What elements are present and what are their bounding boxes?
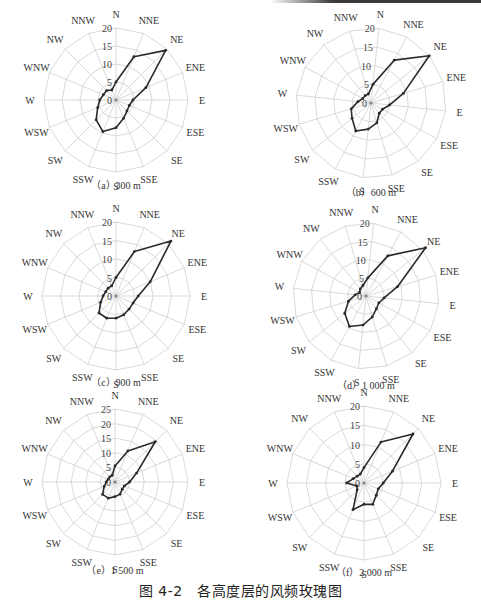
data-point [345,482,348,485]
figure-caption: 图 4-2 各高度层的风频玫瑰图 [0,580,481,600]
direction-label-w: W [278,88,288,99]
data-point [343,312,346,315]
data-point [359,473,362,476]
direction-label-nw: NW [45,415,62,426]
data-point [105,317,108,320]
direction-label-nnw: NNW [329,207,353,218]
direction-label-w: W [268,478,278,489]
data-point [128,104,131,107]
data-point [111,474,114,477]
data-point [114,495,117,498]
data-point [105,89,108,92]
data-point [121,488,124,491]
direction-label-w: W [25,95,35,106]
direction-label-n: N [111,390,118,401]
ring-value-label: 5 [355,459,360,470]
direction-label-se: SE [171,538,183,549]
data-point [354,130,357,133]
data-point [377,302,380,305]
ring-value-label: 10 [102,254,112,265]
data-point [388,104,391,107]
direction-label-se: SE [172,353,184,364]
data-point [350,107,353,110]
data-point [375,121,378,124]
data-point [110,284,113,287]
direction-label-ese: ESE [434,332,452,343]
data-point [122,313,125,316]
direction-label-nnw: NNW [70,396,94,407]
direction-label-ne: NE [170,34,183,45]
direction-label-nw: NW [291,413,308,424]
direction-label-ne: NE [422,413,435,424]
data-point [352,477,355,480]
direction-label-n: N [371,204,378,215]
data-point [137,295,140,298]
center-marker [369,101,372,104]
direction-label-w: W [275,281,285,292]
ring-value-label: 15 [350,420,360,431]
center-marker [362,481,365,484]
grid-spoke [371,103,392,175]
direction-label-ese: ESE [187,127,205,138]
direction-label-e: E [456,107,462,118]
direction-label-wsw: WSW [270,315,295,326]
direction-label-ene: ENE [440,266,459,277]
direction-label-se: SE [421,167,433,178]
direction-label-ene: ENE [186,443,205,454]
data-point [122,117,125,120]
data-point [381,108,384,111]
data-point [347,300,350,303]
ring-value-label: 20 [102,23,112,34]
direction-label-sw: SW [291,345,307,356]
data-point [102,93,105,96]
direction-label-e: E [449,300,455,311]
data-point [96,106,99,109]
direction-label-ene: ENE [438,443,457,454]
direction-label-ese: ESE [439,512,457,523]
grid-spoke [371,82,443,103]
data-point [359,288,362,291]
direction-label-e: E [452,478,458,489]
data-point [128,481,131,484]
grid-spoke [296,296,366,317]
direction-label-e: E [199,95,205,106]
direction-label-nne: NNE [138,396,159,407]
data-point [354,293,357,296]
data-point [154,440,157,443]
direction-label-sw: SW [292,542,308,553]
direction-label-wnw: WNW [23,62,50,73]
direction-label-ese: ESE [186,510,204,521]
ring-value-label: 10 [102,59,112,70]
data-point [99,301,102,304]
data-point [133,55,136,58]
grid-spoke [116,296,168,348]
data-point [348,325,351,328]
ring-value-label: 15 [101,433,111,444]
data-point [107,287,110,290]
data-point [170,240,173,243]
data-point [119,493,122,496]
direction-label-wnw: WNW [280,55,307,66]
data-point [364,94,367,97]
direction-label-ene: ENE [188,257,207,268]
ring-value-label: 15 [102,236,112,247]
data-point [363,503,366,506]
direction-label-nw: NW [307,28,324,39]
data-point [356,488,359,491]
direction-label-nnw: NNW [334,12,358,23]
ring-value-label: 20 [350,401,360,412]
direction-label-n: N [112,9,119,20]
grid-spoke [366,275,436,296]
direction-label-n: N [112,203,119,214]
subfigure-caption-f: （f）2 000 m [264,564,464,579]
data-point [114,465,117,468]
grid-spoke [116,100,167,151]
direction-label-nw: NW [45,228,62,239]
direction-label-w: W [23,477,33,488]
data-point [375,494,378,497]
direction-label-wsw: WSW [22,324,47,335]
direction-label-e: E [199,477,205,488]
direction-label-wnw: WNW [276,249,303,260]
data-point [402,92,405,95]
data-point [386,255,389,258]
